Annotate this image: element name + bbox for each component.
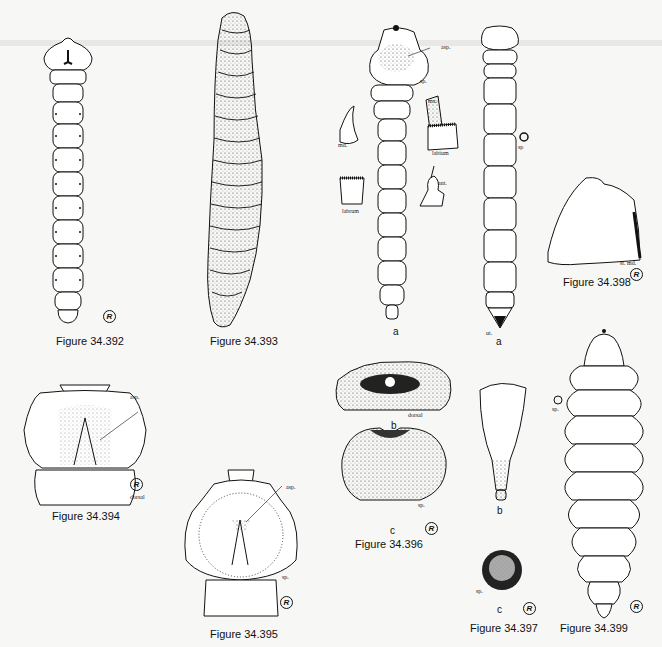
label-sp: sp. (552, 406, 559, 412)
larva-illustration (0, 0, 662, 647)
figure-caption: Figure 34.399 (560, 622, 628, 634)
registered-mark-icon: R (630, 600, 643, 613)
